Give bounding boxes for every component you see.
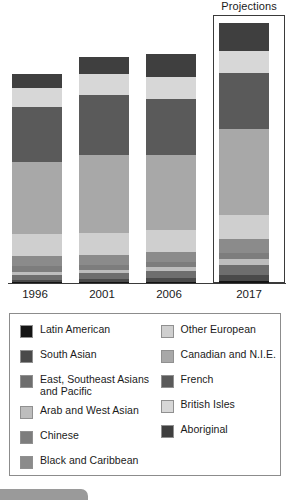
legend-swatch-icon: [20, 431, 33, 444]
legend-item[interactable]: Arab and West Asian: [20, 405, 161, 422]
legend-item-label: East, Southeast Asians and Pacific: [40, 374, 161, 397]
legend-column-right: Other EuropeanCanadian and N.I.E.FrenchB…: [161, 314, 280, 475]
bar-segment: [146, 271, 196, 278]
bar-segment: [219, 51, 269, 73]
x-tick-label-1996: 1996: [5, 287, 65, 301]
bar-2001: [79, 57, 129, 283]
bar-segment: [79, 155, 129, 233]
bar-segment: [79, 233, 129, 255]
x-tick-label-2006: 2006: [139, 287, 199, 301]
bar-segment: [146, 99, 196, 155]
legend-item-label: Other European: [181, 324, 256, 336]
legend-item[interactable]: Canadian and N.I.E.: [161, 349, 280, 366]
bar-segment: [79, 95, 129, 155]
legend-item[interactable]: Other European: [161, 324, 280, 341]
bar-segment: [12, 162, 62, 234]
bar-segment: [79, 74, 129, 95]
legend-item[interactable]: Aboriginal: [161, 424, 280, 441]
legend-item[interactable]: Chinese: [20, 430, 161, 447]
bar-segment: [12, 234, 62, 256]
legend-item[interactable]: Black and Caribbean: [20, 455, 161, 472]
bar-segment: [219, 129, 269, 215]
x-tick-label-2017: 2017: [219, 287, 279, 301]
bar-segment: [79, 255, 129, 265]
legend-item-label: Latin American: [40, 324, 110, 336]
bar-segment: [146, 155, 196, 230]
legend-swatch-icon: [20, 350, 33, 363]
bar-segment: [219, 215, 269, 239]
legend-item-label: Canadian and N.I.E.: [181, 349, 277, 361]
legend-column-left: Latin AmericanSouth AsianEast, Southeast…: [10, 314, 161, 475]
x-tick-label-2001: 2001: [72, 287, 132, 301]
legend-swatch-icon: [161, 325, 174, 338]
bar-segment: [219, 239, 269, 253]
x-axis-line: [8, 283, 286, 284]
legend-item[interactable]: French: [161, 374, 280, 391]
chart-legend: Latin AmericanSouth AsianEast, Southeast…: [9, 313, 281, 476]
bar-segment: [219, 73, 269, 129]
legend-swatch-icon: [20, 406, 33, 419]
legend-item-label: Aboriginal: [181, 424, 228, 436]
bar-segment: [146, 230, 196, 252]
legend-item[interactable]: Latin American: [20, 324, 161, 341]
bar-segment: [219, 23, 269, 51]
bar-segment: [146, 77, 196, 99]
bar-1996: [12, 74, 62, 283]
legend-item[interactable]: South Asian: [20, 349, 161, 366]
bottom-page-tab: [0, 489, 88, 500]
bar-segment: [12, 74, 62, 88]
bar-segment: [146, 252, 196, 262]
bar-segment: [219, 265, 269, 275]
bar-2006: [146, 54, 196, 283]
bar-segment: [12, 88, 62, 107]
legend-item-label: Chinese: [40, 430, 79, 442]
bar-segment: [12, 107, 62, 162]
legend-swatch-icon: [161, 400, 174, 413]
legend-swatch-icon: [161, 375, 174, 388]
legend-item-label: Arab and West Asian: [40, 405, 139, 417]
legend-item[interactable]: British Isles: [161, 399, 280, 416]
legend-swatch-icon: [161, 350, 174, 363]
legend-swatch-icon: [161, 425, 174, 438]
bar-segment: [12, 256, 62, 266]
bar-2017: [219, 23, 269, 283]
legend-item-label: French: [181, 374, 214, 386]
legend-item-label: Black and Caribbean: [40, 455, 138, 467]
legend-swatch-icon: [20, 375, 33, 388]
bar-segment: [79, 57, 129, 74]
legend-item-label: British Isles: [181, 399, 235, 411]
stacked-bar-chart: Projections 1996 2001 2006 2017: [0, 0, 290, 300]
bars-container: [0, 0, 290, 283]
legend-swatch-icon: [20, 456, 33, 469]
legend-item-label: South Asian: [40, 349, 97, 361]
legend-swatch-icon: [20, 325, 33, 338]
legend-item[interactable]: East, Southeast Asians and Pacific: [20, 374, 161, 397]
bar-segment: [146, 54, 196, 77]
